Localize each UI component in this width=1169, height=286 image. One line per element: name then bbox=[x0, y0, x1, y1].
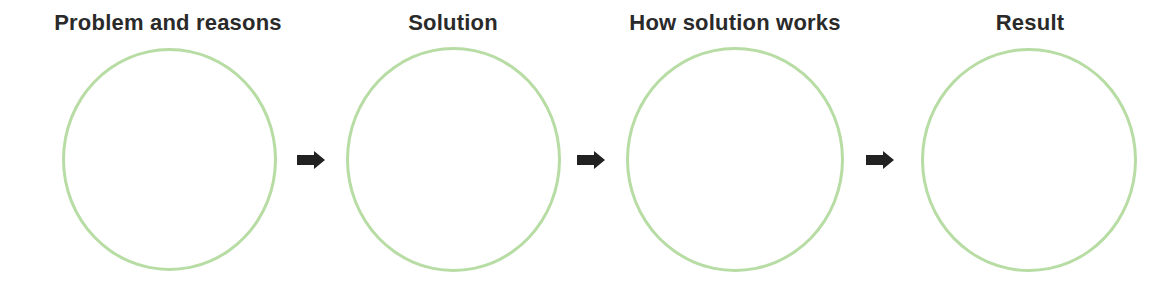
stage-title-problem-and-reasons: Problem and reasons bbox=[54, 8, 282, 38]
stage-title-result: Result bbox=[996, 8, 1064, 38]
stage-title-how-solution-works: How solution works bbox=[629, 8, 840, 38]
right-arrow-icon bbox=[297, 151, 325, 169]
stage-circle-problem-and-reasons bbox=[62, 48, 277, 271]
stage-circle-solution bbox=[346, 47, 561, 272]
stage-circle-how-solution-works bbox=[626, 47, 844, 272]
right-arrow-icon bbox=[866, 151, 894, 169]
stage-title-solution: Solution bbox=[408, 8, 498, 38]
right-arrow-icon bbox=[577, 151, 605, 169]
stage-circle-result bbox=[921, 48, 1137, 272]
